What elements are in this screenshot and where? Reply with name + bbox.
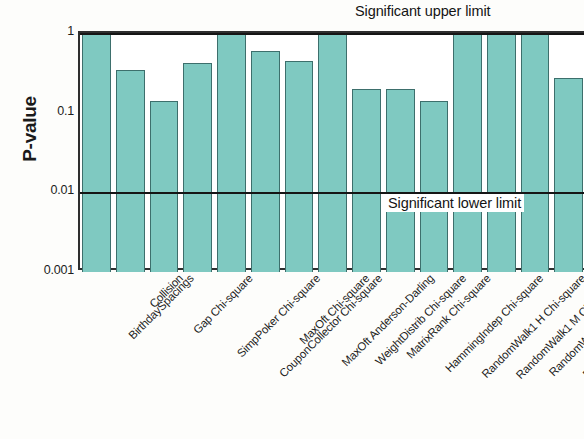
- x-tick-label: BirthdaySpacings: [126, 272, 196, 342]
- bar: [150, 101, 179, 272]
- bar: [521, 34, 550, 272]
- bar: [554, 78, 583, 272]
- bar: [116, 70, 145, 272]
- bar: [82, 34, 111, 272]
- x-tick-label: CouponCollector Chi-square: [277, 272, 384, 379]
- bar: [285, 61, 314, 272]
- bar: [183, 63, 212, 272]
- bar: [318, 34, 347, 272]
- bar: [251, 51, 280, 272]
- significant-lower-limit-label: Significant lower limit: [385, 194, 524, 212]
- plot-area: [78, 31, 584, 270]
- y-tick-label: 1: [67, 24, 74, 38]
- y-tick-label: 0.001: [44, 263, 74, 277]
- bar: [386, 89, 415, 272]
- bar: [352, 89, 381, 272]
- x-axis-tick-labels: BirthdaySpacingsCollisionGap Chi-squareS…: [78, 272, 584, 439]
- pvalue-bar-chart: P-value 10.10.010.001 Significant upper …: [0, 0, 584, 439]
- y-tick-label: 0.01: [50, 183, 74, 197]
- significant-upper-limit-label: Significant upper limit: [352, 2, 494, 20]
- x-tick-label: Gap Chi-square: [191, 272, 255, 336]
- y-tick-label: 0.1: [57, 104, 74, 118]
- bar: [420, 101, 449, 272]
- bar: [217, 34, 246, 272]
- y-axis-title: P-value: [19, 69, 41, 189]
- significant-upper-limit-line: [80, 33, 584, 35]
- bar: [453, 34, 482, 272]
- bar: [487, 34, 516, 272]
